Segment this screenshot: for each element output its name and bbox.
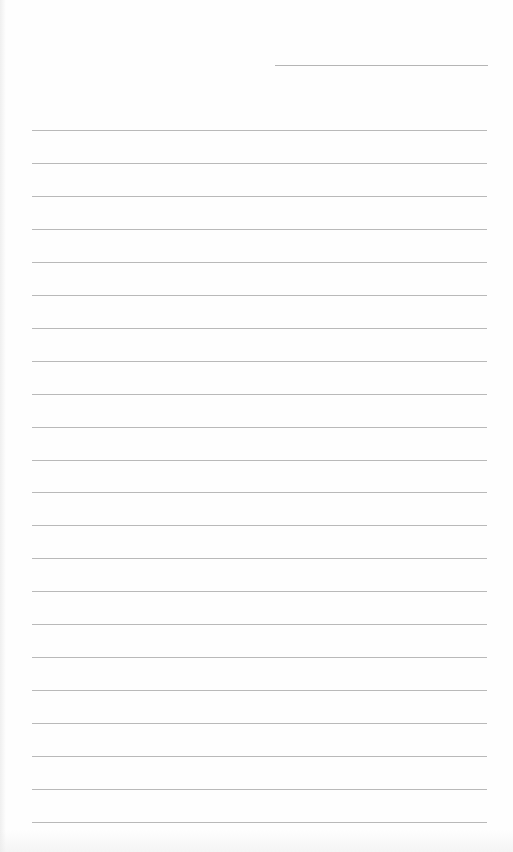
ruled-line bbox=[32, 591, 487, 592]
ruled-line bbox=[32, 690, 487, 691]
ruled-line bbox=[32, 229, 487, 230]
header-name-line bbox=[275, 65, 488, 66]
ruled-line bbox=[32, 723, 487, 724]
ruled-line bbox=[32, 756, 487, 757]
ruled-line bbox=[32, 328, 487, 329]
ruled-line bbox=[32, 525, 487, 526]
ruled-line bbox=[32, 130, 487, 131]
lined-paper-page bbox=[0, 0, 513, 852]
ruled-line bbox=[32, 624, 487, 625]
ruled-line bbox=[32, 657, 487, 658]
ruled-line bbox=[32, 427, 487, 428]
ruled-line bbox=[32, 492, 487, 493]
ruled-line bbox=[32, 196, 487, 197]
ruled-line bbox=[32, 822, 487, 823]
ruled-line bbox=[32, 262, 487, 263]
ruled-line bbox=[32, 295, 487, 296]
ruled-line bbox=[32, 361, 487, 362]
ruled-line bbox=[32, 394, 487, 395]
page-edge-shadow bbox=[0, 0, 6, 852]
ruled-line bbox=[32, 460, 487, 461]
ruled-line bbox=[32, 163, 487, 164]
ruled-line bbox=[32, 558, 487, 559]
ruled-line bbox=[32, 789, 487, 790]
bottom-bleed-through bbox=[0, 830, 513, 852]
